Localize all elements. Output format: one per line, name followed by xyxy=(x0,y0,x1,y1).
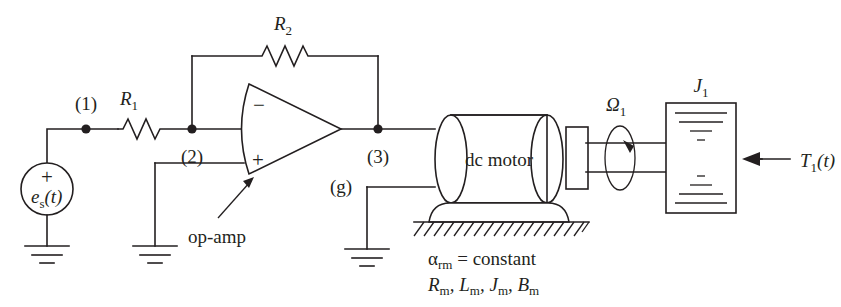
motor-body-label: dc motor xyxy=(465,149,534,170)
opamp-inverting-sign: − xyxy=(253,93,265,117)
node-2-group: (2) xyxy=(181,56,249,168)
support-hatching xyxy=(414,222,589,236)
dc-motor-group: dc motor xyxy=(414,115,589,236)
node-1-dot xyxy=(81,124,90,133)
source-top-lead xyxy=(47,129,118,163)
load-inertia-label: J1 xyxy=(694,75,709,100)
angular-speed-label: Ω1 xyxy=(606,94,626,119)
motor-base xyxy=(429,203,569,222)
resistor-r2-zigzag xyxy=(192,46,378,66)
load-torque-label: T1(t) xyxy=(800,150,835,175)
opamp-callout-arrowhead xyxy=(243,177,254,188)
motor-fixed-support xyxy=(414,222,589,236)
torque-arrowhead xyxy=(742,152,760,166)
resistor-r2-label: R2 xyxy=(273,13,292,38)
schematic-figure: + es(t) (1) R1 (2) xyxy=(0,0,841,307)
motor-bearing-box xyxy=(566,127,588,189)
ground-symbol-source xyxy=(25,246,69,263)
opamp-callout-line xyxy=(218,182,250,218)
opamp-noninverting-sign: + xyxy=(252,148,264,172)
node-g-group: (g) xyxy=(330,176,435,266)
node-3-label: (3) xyxy=(367,146,389,168)
load-torque-group: T1(t) xyxy=(742,150,835,175)
node-g-label: (g) xyxy=(330,176,352,198)
node-3-group: (3) xyxy=(367,124,389,168)
motor-shaft-group: Ω1 xyxy=(586,94,667,190)
load-inertia-group: J1 xyxy=(666,75,736,213)
resistor-r1-label: R1 xyxy=(119,88,138,113)
schematic-canvas: + es(t) (1) R1 (2) xyxy=(0,0,841,307)
motor-left-endcap xyxy=(435,115,467,203)
ground-symbol-noninverting xyxy=(133,246,177,263)
node-1-label: (1) xyxy=(75,93,97,115)
opamp-group: − + op-amp xyxy=(133,84,435,263)
motor-parameters-group: αrm = constant Rm, Lm, Jm, Bm xyxy=(427,248,539,298)
load-inertia-block xyxy=(666,103,736,213)
resistor-r1-zigzag xyxy=(118,119,192,139)
ground-symbol-g-node xyxy=(345,249,389,266)
shaft-rotation-ellipse xyxy=(605,126,635,190)
node-1-group: (1) xyxy=(75,93,97,134)
opamp-callout-label: op-amp xyxy=(188,226,246,247)
node-3-dot xyxy=(373,124,382,133)
motor-parameter-line-2: Rm, Lm, Jm, Bm xyxy=(427,274,539,298)
node-2-label: (2) xyxy=(181,146,203,168)
voltage-source-group: + es(t) xyxy=(21,129,118,263)
motor-parameter-line-1: αrm = constant xyxy=(428,248,537,272)
resistor-r1-group: R1 xyxy=(118,88,192,139)
